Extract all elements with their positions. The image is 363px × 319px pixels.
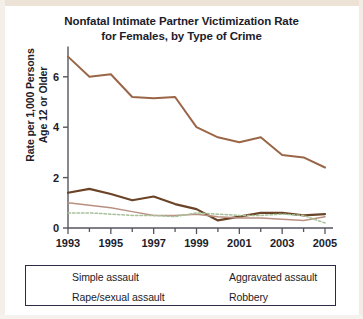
y-tick-label: 6 [53, 71, 59, 83]
legend-row: Rape/sexual assault Robbery [26, 287, 335, 306]
legend-label-simple-assault: Simple assault [72, 271, 139, 283]
x-tick-label: 2001 [227, 237, 251, 249]
series-line-aggravated-assault [68, 189, 325, 221]
x-tick-label: 1999 [184, 237, 208, 249]
y-tick-label: 4 [53, 121, 60, 133]
series-line-rape-sexual-assault [68, 203, 325, 221]
tick-labels: 02461993199519971999200120032005 [53, 71, 337, 249]
legend-label-aggravated-assault: Aggravated assault [229, 271, 317, 283]
data-series [68, 57, 325, 223]
legend-item-aggravated-assault[interactable]: Aggravated assault [194, 271, 334, 283]
x-tick-label: 1995 [99, 237, 123, 249]
legend-item-rape-sexual-assault[interactable]: Rape/sexual assault [26, 291, 194, 303]
legend-label-robbery: Robbery [229, 291, 268, 303]
legend-item-simple-assault[interactable]: Simple assault [26, 271, 194, 283]
chart-legend: Simple assault Aggravated assault Rape/s… [25, 265, 336, 306]
y-tick-label: 0 [53, 222, 59, 234]
legend-item-robbery[interactable]: Robbery [194, 291, 334, 303]
x-tick-label: 1993 [56, 237, 80, 249]
y-tick-label: 2 [53, 172, 59, 184]
x-tick-label: 1997 [141, 237, 165, 249]
legend-row: Simple assault Aggravated assault [26, 267, 335, 286]
x-tick-label: 2005 [313, 237, 337, 249]
series-line-simple-assault [68, 57, 325, 168]
x-tick-label: 2003 [270, 237, 294, 249]
legend-label-rape-sexual-assault: Rape/sexual assault [72, 291, 165, 303]
chart-figure: Nonfatal Intimate Partner Victimization … [0, 0, 363, 319]
